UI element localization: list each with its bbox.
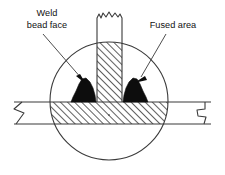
vertical-member: [97, 10, 122, 102]
weld-bead-face-label-line1: Weld: [37, 8, 58, 18]
base-plate-hatch: [14, 102, 211, 124]
weld-bead-face-leader: [43, 34, 86, 84]
base-plate: [14, 102, 211, 124]
weld-cross-section-figure: Weld bead face Fused area: [0, 0, 225, 175]
fused-area-leader-line: [141, 34, 166, 77]
weld-diagram: Weld bead face Fused area: [0, 0, 225, 175]
weld-bead-face-label-line2: bead face: [27, 20, 67, 30]
vertical-member-hatch: [97, 10, 122, 102]
base-plate-right-break: [197, 102, 206, 124]
fused-area-label-line1: Fused area: [150, 20, 197, 30]
base-plate-left-break: [14, 102, 24, 124]
weld-bead-face-leader-line: [43, 34, 82, 79]
right-weld-bead: [123, 78, 148, 102]
